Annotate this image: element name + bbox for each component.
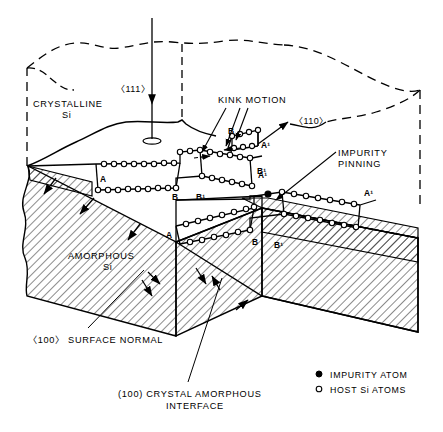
atom-label-a-lower: A [166,230,172,240]
legend-label-impurity: IMPURITY ATOM [330,370,408,380]
host-si-atom [240,144,245,149]
host-si-atom [231,209,236,214]
host-si-atom [165,185,170,190]
host-si-atom [151,161,156,166]
host-si-atom [209,175,214,180]
host-si-atom [247,155,252,160]
host-si-atom [315,195,320,200]
diagram-svg: 〈111〉 CRYSTALLINE Si AMORPHOUS Si B A¹ B… [0,0,443,432]
amorphous-si-label: AMORPHOUS [68,251,135,261]
figure-container: 〈111〉 CRYSTALLINE Si AMORPHOUS Si B A¹ B… [0,0,443,432]
host-si-atom [195,218,200,223]
atom-label-b1-lower: B¹ [274,240,283,250]
host-si-atom [155,185,160,190]
amorphous-si-sublabel: Si [103,262,113,272]
host-si-atom [251,204,256,209]
host-si-atom [353,224,358,229]
host-si-atom [125,186,130,191]
host-si-atom [207,215,212,220]
host-si-atom [219,177,224,182]
dir-110-label: 〈110〉 [294,116,329,126]
dir-111-label: 〈111〉 [116,84,150,94]
host-si-atom [183,221,188,226]
host-si-atom [247,227,252,232]
host-si-atom [341,222,346,227]
host-si-atom [237,154,242,159]
host-si-atom [281,211,286,216]
host-si-atom [223,232,228,237]
host-si-atom [101,161,106,166]
host-si-atom [229,179,234,184]
host-si-atom [121,161,126,166]
host-si-atom [249,143,254,148]
atom-label-b1-upper: B¹ [196,192,205,202]
host-si-atom [141,161,146,166]
impurity-atom-marker [316,371,322,377]
host-si-atom [145,186,150,191]
host-si-atom [217,151,222,156]
impurity-pinning-label-1: IMPURITY [338,148,388,158]
host-si-atom [131,161,136,166]
host-si-atom [207,149,212,154]
host-si-atom [339,199,344,204]
surface-normal-label: 〈100〉 SURFACE NORMAL [28,335,163,345]
host-si-atom [111,161,116,166]
host-si-atom [187,239,192,244]
host-si-atom [219,212,224,217]
host-si-atom [135,186,140,191]
host-si-atom [173,185,178,190]
host-si-atom [115,187,120,192]
crystalline-si-label: CRYSTALLINE [33,99,103,109]
impurity-atom [265,191,271,197]
atom-label-a-upper: A [100,174,106,184]
host-si-atom [327,197,332,202]
host-si-atom [317,217,322,222]
host-si-atom [291,191,296,196]
host-si-atom [95,187,100,192]
host-si-atom [305,215,310,220]
host-si-atom [249,183,254,188]
host-si-atom [255,127,260,132]
host-si-atom [199,173,204,178]
interface-label-2: INTERFACE [166,401,224,411]
host-si-atom [171,160,176,165]
host-si-atom [329,220,334,225]
host-si-atom [351,201,356,206]
host-si-atom [293,213,298,218]
host-si-atom [303,193,308,198]
host-si-atom [227,152,232,157]
impurity-pinning-label-2: PINNING [338,159,381,169]
host-si-atom [246,129,251,134]
host-si-atom [105,187,110,192]
interface-label-1: (100) CRYSTAL AMORPHOUS [118,389,262,399]
host-si-atom [199,237,204,242]
kink-motion-label: KINK MOTION [218,95,286,105]
atom-label-a1-lower: A¹ [364,188,373,198]
atom-label-b-lower: B [252,237,258,247]
crystalline-si-sublabel: Si [62,110,72,120]
host-si-atom [243,206,248,211]
host-si-atom-marker [316,386,322,392]
host-si-atom [239,181,244,186]
host-si-atom [161,160,166,165]
host-si-atom [187,148,192,153]
legend-label-host: HOST Si ATOMS [330,385,406,395]
host-si-atom [177,149,182,154]
host-si-atom [231,145,236,150]
atom-label-a1-upper: A¹ [258,170,267,180]
host-si-atom [211,234,216,239]
host-si-atom [235,229,240,234]
